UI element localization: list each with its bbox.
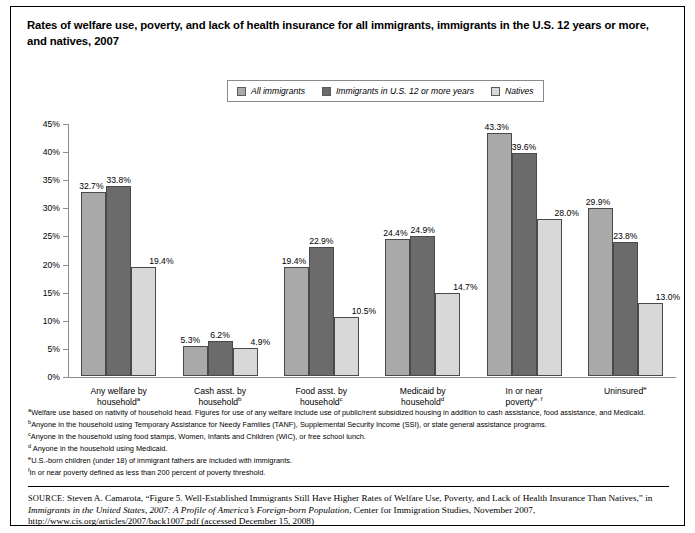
bar[interactable] bbox=[588, 208, 613, 376]
bar-column[interactable]: 24.9% bbox=[410, 236, 435, 376]
bar-value-label: 23.8% bbox=[613, 231, 637, 241]
bar-group: 19.4%22.9%10.5% bbox=[284, 247, 359, 376]
bar-column[interactable]: 19.4% bbox=[131, 267, 156, 376]
bar[interactable] bbox=[512, 153, 537, 376]
y-axis-tick-mark bbox=[63, 321, 68, 322]
bar-column[interactable]: 29.9% bbox=[588, 208, 613, 376]
footnote-marker: d bbox=[441, 395, 444, 402]
bar[interactable] bbox=[81, 192, 106, 376]
footnote-marker: a bbox=[137, 395, 140, 402]
bar-column[interactable]: 32.7% bbox=[81, 192, 106, 376]
category-label: Uninsurede bbox=[575, 386, 676, 397]
category-label: In or nearpovertye, f bbox=[473, 386, 574, 408]
divider-rule bbox=[28, 486, 669, 487]
legend-swatch-icon bbox=[322, 87, 331, 96]
footnote-item: bAnyone in the household using Temporary… bbox=[28, 420, 669, 430]
footnote-marker: e, f bbox=[534, 395, 543, 402]
bar-value-label: 5.3% bbox=[181, 335, 201, 345]
footnote-text: Anyone in the household using food stamp… bbox=[31, 432, 366, 441]
legend-label: Immigrants in U.S. 12 or more years bbox=[336, 86, 474, 96]
y-axis-tick-mark bbox=[63, 236, 68, 237]
legend-swatch-icon bbox=[237, 87, 246, 96]
bar[interactable] bbox=[131, 267, 156, 376]
bar[interactable] bbox=[638, 303, 663, 376]
y-axis-tick-label: 0% bbox=[48, 372, 60, 382]
bar-value-label: 33.8% bbox=[106, 175, 130, 185]
bar-column[interactable]: 19.4% bbox=[284, 267, 309, 376]
legend-swatch-icon bbox=[491, 87, 500, 96]
category-label: Cash asst. byhouseholdb bbox=[169, 386, 270, 408]
bar-column[interactable]: 43.3% bbox=[487, 133, 512, 376]
bar-column[interactable]: 28.0% bbox=[537, 219, 562, 376]
bar-column[interactable]: 5.3% bbox=[183, 346, 208, 376]
y-axis-tick-mark bbox=[63, 265, 68, 266]
bar-value-label: 6.2% bbox=[210, 330, 230, 340]
bar-value-label: 39.6% bbox=[512, 142, 536, 152]
bar-column[interactable]: 14.7% bbox=[435, 293, 460, 376]
figure-title: Rates of welfare use, poverty, and lack … bbox=[27, 17, 657, 49]
bar-column[interactable]: 13.0% bbox=[638, 303, 663, 376]
bar[interactable] bbox=[233, 348, 258, 376]
y-axis-tick-label: 35% bbox=[43, 175, 60, 185]
bar-value-label: 28.0% bbox=[555, 208, 579, 218]
bar-value-label: 13.0% bbox=[656, 292, 680, 302]
footnote-marker: e bbox=[643, 384, 646, 391]
bar-column[interactable]: 33.8% bbox=[106, 186, 131, 376]
bar[interactable] bbox=[613, 242, 638, 376]
footnotes: aWelfare use based on nativity of househ… bbox=[28, 408, 669, 479]
legend-entry: All immigrants bbox=[237, 86, 305, 96]
y-axis-tick-label: 25% bbox=[43, 231, 60, 241]
bar-column[interactable]: 10.5% bbox=[334, 317, 359, 376]
figure-frame: Rates of welfare use, poverty, and lack … bbox=[10, 6, 685, 526]
bar-group: 5.3%6.2%4.9% bbox=[183, 341, 258, 376]
chart-plot-area: 0%5%10%15%20%25%30%35%40%45% 32.7%33.8%1… bbox=[68, 124, 676, 377]
footnote-text: Anyone in the household using Temporary … bbox=[31, 420, 547, 429]
bar-column[interactable]: 24.4% bbox=[385, 239, 410, 376]
bar[interactable] bbox=[183, 346, 208, 376]
y-axis-tick-mark bbox=[63, 377, 68, 378]
bar[interactable] bbox=[309, 247, 334, 376]
bar[interactable] bbox=[106, 186, 131, 376]
footnote-text: Anyone in the household using Medicaid. bbox=[31, 444, 167, 453]
footnote-marker: c bbox=[340, 395, 343, 402]
bar[interactable] bbox=[487, 133, 512, 376]
bar[interactable] bbox=[385, 239, 410, 376]
bar-column[interactable]: 23.8% bbox=[613, 242, 638, 376]
footnote-item: aWelfare use based on nativity of househ… bbox=[28, 408, 669, 418]
bar[interactable] bbox=[410, 236, 435, 376]
bar[interactable] bbox=[537, 219, 562, 376]
legend-entry: Natives bbox=[491, 86, 534, 96]
bar[interactable] bbox=[334, 317, 359, 376]
bar-column[interactable]: 22.9% bbox=[309, 247, 334, 376]
legend-label: Natives bbox=[505, 86, 534, 96]
y-axis-tick-label: 5% bbox=[48, 344, 60, 354]
y-axis-tick-label: 15% bbox=[43, 288, 60, 298]
footnote-text: U.S.-born children (under 18) of immigra… bbox=[31, 456, 292, 465]
bar[interactable] bbox=[208, 341, 233, 376]
category-label: Medicaid byhouseholdd bbox=[372, 386, 473, 408]
bar-value-label: 14.7% bbox=[453, 282, 477, 292]
y-axis-tick-label: 10% bbox=[43, 316, 60, 326]
y-axis-tick-label: 45% bbox=[43, 119, 60, 129]
bar-column[interactable]: 4.9% bbox=[233, 348, 258, 376]
y-axis-tick-mark bbox=[63, 180, 68, 181]
y-axis-tick-label: 20% bbox=[43, 260, 60, 270]
bar-value-label: 10.5% bbox=[352, 306, 376, 316]
x-axis-line bbox=[68, 377, 676, 378]
bar-column[interactable]: 39.6% bbox=[512, 153, 537, 376]
bar[interactable] bbox=[284, 267, 309, 376]
bar-value-label: 32.7% bbox=[79, 181, 103, 191]
source-note: SOURCE: Steven A. Camarota, “Figure 5. W… bbox=[28, 493, 669, 528]
bar-value-label: 43.3% bbox=[485, 122, 509, 132]
y-axis-tick-label: 30% bbox=[43, 203, 60, 213]
bar[interactable] bbox=[435, 293, 460, 376]
bar-column[interactable]: 6.2% bbox=[208, 341, 233, 376]
y-axis-tick-mark bbox=[63, 208, 68, 209]
chart-legend: All immigrantsImmigrants in U.S. 12 or m… bbox=[227, 80, 544, 102]
y-axis-tick-mark bbox=[63, 152, 68, 153]
bar-group: 43.3%39.6%28.0% bbox=[487, 133, 562, 376]
bar-group: 32.7%33.8%19.4% bbox=[81, 186, 156, 376]
bar-value-label: 24.9% bbox=[410, 225, 434, 235]
bar-value-label: 4.9% bbox=[251, 337, 271, 347]
bar-value-label: 19.4% bbox=[149, 256, 173, 266]
